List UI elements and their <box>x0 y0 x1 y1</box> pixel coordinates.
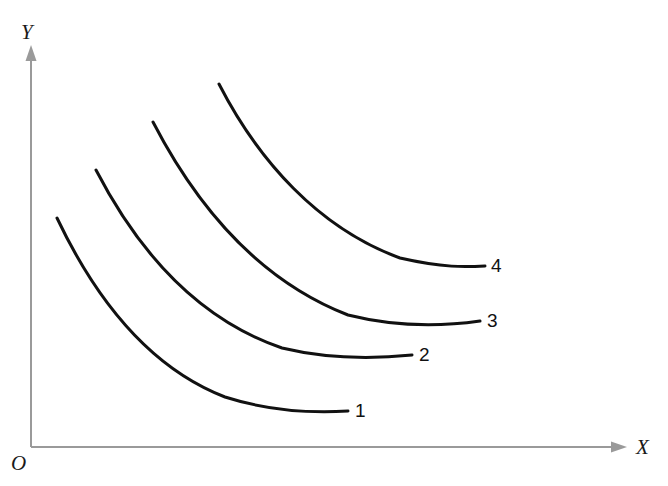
curve-1 <box>57 218 348 412</box>
curve-2 <box>96 170 412 357</box>
indifference-curve-figure: Y X O 1 2 3 4 <box>0 0 668 486</box>
curve-label-2: 2 <box>419 345 430 364</box>
plot-canvas <box>0 0 668 486</box>
x-axis-arrow-icon <box>611 442 627 453</box>
curve-4 <box>219 84 485 267</box>
curve-label-1: 1 <box>355 401 366 420</box>
origin-label: O <box>11 453 26 474</box>
curve-label-3: 3 <box>487 311 498 330</box>
y-axis-label: Y <box>21 22 33 43</box>
axis-group <box>26 45 628 453</box>
curve-3 <box>153 122 480 325</box>
y-axis-arrow-icon <box>26 45 37 61</box>
x-axis-label: X <box>636 437 649 458</box>
curve-label-4: 4 <box>491 256 502 275</box>
